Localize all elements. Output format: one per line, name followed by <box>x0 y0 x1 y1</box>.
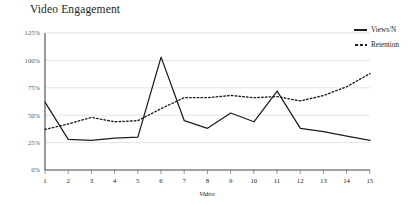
x-tick-9: 9 <box>229 177 233 184</box>
x-tick-7: 7 <box>182 177 186 184</box>
x-tick-10: 10 <box>250 177 257 184</box>
x-tick-1: 1 <box>43 177 46 184</box>
series-line-retention <box>45 74 370 130</box>
y-tick-25: 25% <box>28 139 41 146</box>
x-tick-15: 15 <box>366 177 373 184</box>
x-axis-title: Video <box>199 190 215 197</box>
plot-area: 125% 100% 75% 50% 25% 0% 1 <box>0 0 412 206</box>
gridlines <box>45 33 370 143</box>
chart-container: Video Engagement Views/N Retention 125% … <box>0 0 412 206</box>
y-tick-75: 75% <box>28 84 41 91</box>
y-axis-labels: 125% 100% 75% 50% 25% 0% <box>25 29 41 173</box>
x-axis-ticks <box>45 170 370 174</box>
x-tick-5: 5 <box>136 177 140 184</box>
x-tick-13: 13 <box>320 177 327 184</box>
x-tick-8: 8 <box>206 177 210 184</box>
y-tick-125: 125% <box>25 29 41 36</box>
series-line-views <box>45 57 370 140</box>
y-tick-50: 50% <box>28 112 41 119</box>
x-tick-3: 3 <box>90 177 94 184</box>
x-axis-labels: 1 2 3 4 5 6 7 8 9 10 11 12 13 14 15 <box>43 177 374 184</box>
y-tick-0: 0% <box>31 166 40 173</box>
x-tick-6: 6 <box>159 177 163 184</box>
x-tick-4: 4 <box>113 177 117 184</box>
y-tick-100: 100% <box>25 57 41 64</box>
x-tick-14: 14 <box>343 177 350 184</box>
x-tick-2: 2 <box>66 177 70 184</box>
x-tick-12: 12 <box>297 177 304 184</box>
x-tick-11: 11 <box>274 177 281 184</box>
